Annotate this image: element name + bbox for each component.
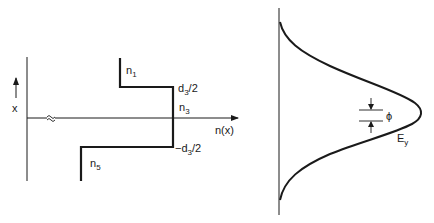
- field-profile-curve: [280, 22, 421, 200]
- lower-boundary-label: −d3/2: [175, 142, 201, 157]
- phi-label: ϕ: [386, 110, 392, 122]
- diagram-canvas: x n(x) n1 d3/2 n3 −d3/2 n5: [0, 0, 434, 223]
- x-axis-label: x: [12, 102, 18, 114]
- field-distribution-panel: ϕ Ey: [279, 8, 421, 215]
- n-of-x-label: n(x): [215, 124, 234, 136]
- upper-boundary-label: d3/2: [178, 82, 198, 97]
- region-n3-label: n3: [179, 101, 190, 116]
- field-ey-label: Ey: [397, 132, 408, 147]
- region-n5-label: n5: [90, 157, 101, 172]
- axis-break-icon: [47, 114, 55, 122]
- index-profile-panel: x n(x) n1 d3/2 n3 −d3/2 n5: [12, 57, 238, 181]
- region-n1-label: n1: [126, 64, 137, 79]
